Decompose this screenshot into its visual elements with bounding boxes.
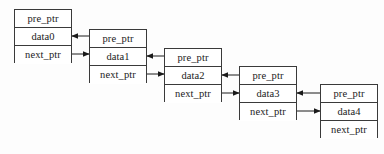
node-next-ptr-cell: next_ptr xyxy=(90,66,146,84)
node-data-cell: data0 xyxy=(15,28,71,46)
list-node: pre_ptr data2 next_ptr xyxy=(164,48,222,102)
node-pre-ptr-cell: pre_ptr xyxy=(240,67,296,85)
node-pre-ptr-cell: pre_ptr xyxy=(90,30,146,48)
node-next-ptr-cell: next_ptr xyxy=(321,121,377,139)
node-data-cell: data4 xyxy=(321,103,377,121)
node-pre-ptr-cell: pre_ptr xyxy=(15,10,71,28)
list-node: pre_ptr data3 next_ptr xyxy=(239,66,297,120)
node-data-cell: data2 xyxy=(165,67,221,85)
node-data-cell: data1 xyxy=(90,48,146,66)
linked-list-diagram: pre_ptr data0 next_ptr pre_ptr data1 nex… xyxy=(0,0,384,154)
list-node: pre_ptr data1 next_ptr xyxy=(89,29,147,83)
node-next-ptr-cell: next_ptr xyxy=(15,46,71,64)
node-next-ptr-cell: next_ptr xyxy=(240,103,296,121)
list-node: pre_ptr data0 next_ptr xyxy=(14,9,72,63)
list-node: pre_ptr data4 next_ptr xyxy=(320,84,378,138)
node-data-cell: data3 xyxy=(240,85,296,103)
node-pre-ptr-cell: pre_ptr xyxy=(165,49,221,67)
node-next-ptr-cell: next_ptr xyxy=(165,85,221,103)
node-pre-ptr-cell: pre_ptr xyxy=(321,85,377,103)
